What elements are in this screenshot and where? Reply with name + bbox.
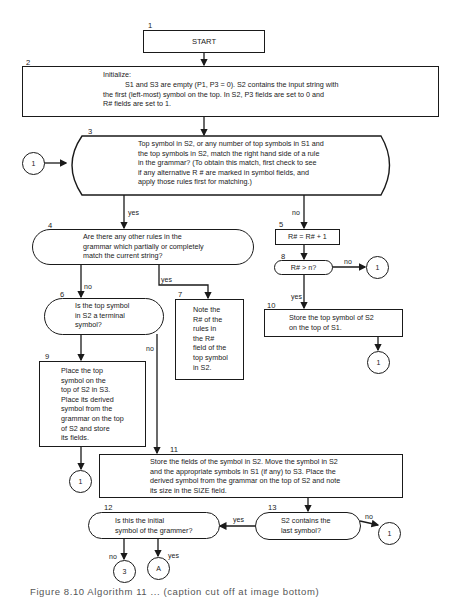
edge-6-no-label: no	[146, 345, 154, 352]
node-5-number: 5	[279, 220, 283, 229]
store-fields-node: Store the fields of the symbol in S2. Mo…	[99, 454, 403, 498]
node-7-number: 7	[178, 290, 182, 299]
connector-1-from-10: 1	[367, 351, 390, 374]
node-11-number: 11	[170, 445, 178, 454]
initial-symbol-decision: Is this the initial symbol of the gramme…	[88, 512, 220, 539]
store-top-symbol-text: Store the top symbol of S2 on the top of…	[289, 313, 374, 332]
last-symbol-decision: S2 contains the last symbol?	[255, 512, 361, 540]
connector-3: 3	[113, 560, 136, 583]
edge-4-yes-label: yes	[161, 276, 172, 283]
node-3-number: 3	[88, 127, 92, 136]
node-13-number: 13	[268, 503, 276, 512]
initialize-title: Initialize:	[103, 70, 131, 80]
connector-1-from-9: 1	[69, 470, 92, 493]
edge-3-yes-label: yes	[128, 209, 139, 216]
initialize-node: Initialize: S1 and S3 are empty (P1, P3 …	[22, 66, 439, 117]
node-9-number: 9	[45, 352, 49, 361]
edge-8-no-label: no	[344, 258, 352, 265]
other-rules-decision: Are there any other rules in the grammar…	[32, 229, 254, 265]
last-symbol-text: S2 contains the last symbol?	[281, 516, 331, 535]
other-rules-text: Are there any other rules in the grammar…	[83, 232, 204, 261]
edge-8-yes-label: yes	[291, 293, 302, 300]
terminal-symbol-text: Is the top symbol in S2 a terminal symbo…	[75, 301, 129, 330]
edge-3-no-label: no	[292, 209, 300, 216]
initial-symbol-text: Is this the initial symbol of the gramme…	[115, 516, 193, 535]
edge-13-yes-label: yes	[233, 516, 244, 523]
note-rule-text: Note the R# of the rules in the R# field…	[193, 305, 228, 372]
node-1-number: 1	[148, 21, 152, 30]
figure-caption: Figure 8.10 Algorithm 11 ... (caption cu…	[30, 586, 450, 597]
node-12-number: 12	[104, 503, 112, 512]
store-fields-text: Store the fields of the symbol in S2. Mo…	[150, 457, 340, 495]
match-rule-decision: Top symbol in S2, or any number of top s…	[138, 139, 324, 187]
start-node: START	[143, 30, 265, 53]
place-top-symbol-text: Place the top symbol on the top of S2 in…	[61, 366, 124, 443]
place-top-symbol-node: Place the top symbol on the top of S2 in…	[39, 361, 146, 447]
edge-4-no-label: no	[84, 283, 92, 290]
connector-a: A	[147, 557, 170, 580]
rule-exceeds-n-decision: R# > n?	[274, 260, 333, 275]
increment-rule-node: R# = R# + 1	[275, 229, 340, 245]
connector-1-from-8: 1	[366, 256, 389, 279]
connector-1-left: 1	[22, 152, 45, 175]
store-top-symbol-node: Store the top symbol of S2 on the top of…	[264, 309, 403, 337]
edge-12-yes-label: yes	[168, 552, 179, 559]
connector-1-from-13: 1	[378, 522, 401, 545]
initialize-text: S1 and S3 are empty (P1, P3 = 0). S2 con…	[103, 80, 339, 109]
terminal-symbol-decision: Is the top symbol in S2 a terminal symbo…	[44, 298, 164, 335]
edge-12-no-label: no	[109, 553, 117, 560]
edge-13-no-label: no	[365, 513, 373, 520]
note-rule-node: Note the R# of the rules in the R# field…	[175, 299, 244, 380]
